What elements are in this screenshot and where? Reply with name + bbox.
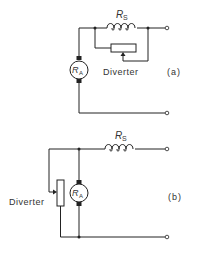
brush-b-bottom bbox=[77, 202, 82, 206]
terminal-b-bottom bbox=[165, 235, 169, 239]
series-coil-b-icon bbox=[105, 145, 133, 152]
ra-sub-a: A bbox=[79, 70, 83, 76]
brush-b-top bbox=[77, 180, 82, 184]
brush-a-top bbox=[77, 56, 82, 60]
ra-label-b: R bbox=[72, 188, 79, 198]
wire-a-diverter-left bbox=[95, 28, 111, 48]
caption-a: (a) bbox=[167, 67, 181, 77]
wiper-arrow-b-icon bbox=[53, 190, 57, 195]
brush-a-bottom bbox=[77, 79, 82, 83]
diverter-label-a: Diverter bbox=[103, 67, 139, 77]
wire-a-bottom bbox=[79, 83, 165, 113]
rs-sub-a: S bbox=[123, 14, 128, 21]
diverter-rheostat-b-icon bbox=[57, 180, 64, 206]
circuit-a: R S R A Diverter (a) bbox=[70, 9, 181, 115]
rs-sub-b: S bbox=[122, 135, 127, 142]
wiper-arrow-a-icon bbox=[121, 52, 126, 56]
terminal-b-top bbox=[165, 147, 169, 151]
diverter-rheostat-a-icon bbox=[111, 44, 136, 52]
wire-a-top-left bbox=[79, 28, 107, 58]
circuit-b: R S R A Diverter (b) bbox=[9, 130, 182, 239]
ra-sub-b: A bbox=[79, 193, 83, 199]
series-coil-a-icon bbox=[107, 24, 135, 31]
wire-b-bottom bbox=[61, 206, 166, 237]
diverter-circuits-diagram: R S R A Diverter (a) R S bbox=[0, 0, 198, 261]
terminal-a-top bbox=[165, 26, 169, 30]
terminal-a-bottom bbox=[165, 111, 169, 115]
caption-b: (b) bbox=[168, 192, 182, 202]
ra-label-a: R bbox=[72, 65, 79, 75]
diverter-label-b: Diverter bbox=[9, 197, 45, 207]
